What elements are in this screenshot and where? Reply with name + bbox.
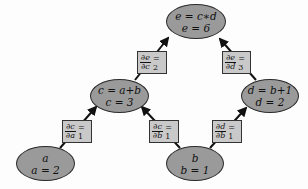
edge-label-de-dc: ∂e ∂c = 2 xyxy=(137,51,167,74)
node-d-value: d = 2 xyxy=(256,96,285,108)
node-c: c = a+b c = 3 xyxy=(90,79,149,113)
node-b-value: b = 1 xyxy=(181,164,210,176)
edge-label-dd-db: ∂d ∂b = 1 xyxy=(212,120,242,143)
computational-graph-diagram: e = c∗d e = 6 c = a+b c = 3 d = b+1 d = … xyxy=(0,0,308,189)
partial-fraction: ∂c ∂b xyxy=(152,123,163,140)
edge-label-dc-db: ∂c ∂b = 1 xyxy=(149,120,179,143)
node-b: b b = 1 xyxy=(166,146,224,181)
edge-label-de-dd: ∂e ∂d = 3 xyxy=(222,51,251,74)
node-c-value: c = 3 xyxy=(105,96,133,108)
node-e-value: e = 6 xyxy=(182,22,210,34)
node-d: d = b+1 d = 2 xyxy=(241,79,299,113)
node-b-expr: b xyxy=(192,152,199,164)
partial-fraction: ∂d ∂b xyxy=(215,123,226,140)
node-a: a a = 2 xyxy=(16,146,75,181)
node-a-expr: a xyxy=(42,152,48,164)
partial-fraction: ∂e ∂d xyxy=(225,54,236,71)
partial-fraction: ∂c ∂a xyxy=(65,123,76,140)
node-e-expr: e = c∗d xyxy=(175,10,216,22)
node-a-value: a = 2 xyxy=(31,164,59,176)
partial-fraction: ∂e ∂c xyxy=(140,54,151,71)
node-c-expr: c = a+b xyxy=(98,84,141,96)
edge-label-dc-da: ∂c ∂a = 1 xyxy=(62,120,92,143)
node-d-expr: d = b+1 xyxy=(248,84,292,96)
node-e: e = c∗d e = 6 xyxy=(166,4,226,39)
